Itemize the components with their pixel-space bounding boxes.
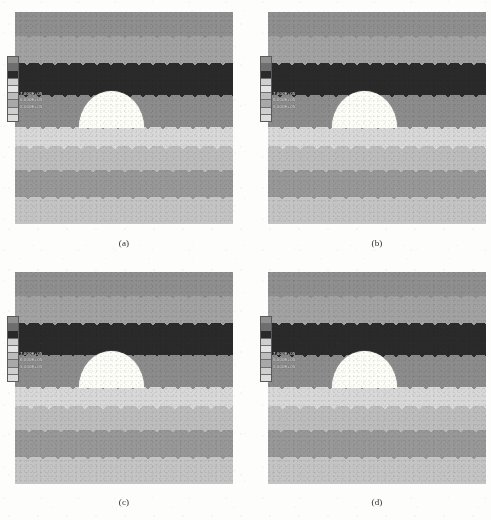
- colorbar-tick-label: 5.000E+05: [273, 104, 295, 110]
- colorbar-swatch: [261, 93, 271, 100]
- colorbar-swatch: [8, 353, 18, 360]
- panel-b: 7.000E+05 6.000E+05 5.000E+05: [268, 12, 486, 224]
- contour-edge: [15, 143, 233, 151]
- colorbar-swatch: [261, 108, 271, 115]
- contour-edge: [15, 403, 233, 411]
- colorbar-swatch: [8, 346, 18, 353]
- colorbar-swatch: [8, 93, 18, 100]
- contour-edge: [268, 33, 486, 41]
- colorbar-swatch: [8, 86, 18, 93]
- colorbar-swatch: [261, 346, 271, 353]
- colorbar-swatch: [8, 339, 18, 346]
- panel-a-plot: [15, 12, 233, 224]
- colorbar-swatch: [261, 375, 271, 381]
- contour-edge: [15, 60, 233, 68]
- colorbar-labels: 7.000E+05 6.000E+05 5.000E+05: [273, 91, 295, 110]
- colorbar-swatch: [8, 317, 18, 324]
- colorbar-swatch: [261, 86, 271, 93]
- colorbar-swatch: [261, 368, 271, 375]
- contour-edge: [268, 403, 486, 411]
- colorbar-swatch: [261, 115, 271, 121]
- colorbar-swatch: [261, 360, 271, 367]
- contour-edge: [268, 454, 486, 462]
- colorbar-swatch: [261, 339, 271, 346]
- panel-caption-c: (c): [15, 497, 233, 507]
- colorbar-swatch: [261, 324, 271, 331]
- colorbar-tick-label: 5.000E+05: [20, 364, 42, 370]
- colorbar-swatch: [261, 317, 271, 324]
- colorbar-labels: 7.000E+05 6.000E+05 5.000E+05: [273, 351, 295, 370]
- panel-c: 7.000E+05 6.000E+05 5.000E+05: [15, 272, 233, 484]
- figure-four-contour-panels: 7.000E+05 6.000E+05 5.000E+05 (a): [0, 0, 491, 520]
- contour-edge: [268, 194, 486, 202]
- contour-edge: [15, 33, 233, 41]
- colorbar-labels: 7.000E+05 6.000E+05 5.000E+05: [20, 91, 42, 110]
- panel-caption-b: (b): [268, 238, 486, 248]
- panel-a: 7.000E+05 6.000E+05 5.000E+05: [15, 12, 233, 224]
- colorbar-swatch: [8, 108, 18, 115]
- contour-edge: [268, 143, 486, 151]
- colorbar-swatch: [261, 79, 271, 86]
- colorbar: [7, 316, 19, 382]
- colorbar-swatch: [8, 79, 18, 86]
- contour-edge: [268, 167, 486, 175]
- colorbar-swatch: [8, 57, 18, 64]
- panel-c-plot: [15, 272, 233, 484]
- colorbar: [7, 56, 19, 122]
- colorbar-swatch: [8, 115, 18, 121]
- colorbar-swatch: [8, 64, 18, 71]
- colorbar-swatch: [8, 368, 18, 375]
- colorbar-labels: 7.000E+05 6.000E+05 5.000E+05: [20, 351, 42, 370]
- colorbar-swatch: [261, 100, 271, 107]
- panel-caption-d: (d): [268, 497, 486, 507]
- contour-edge: [268, 320, 486, 328]
- contour-edge: [268, 293, 486, 301]
- colorbar-tick-label: 5.000E+05: [20, 104, 42, 110]
- contour-edge: [15, 167, 233, 175]
- colorbar-tick-label: 5.000E+05: [273, 364, 295, 370]
- contour-edge: [15, 320, 233, 328]
- colorbar-swatch: [261, 353, 271, 360]
- colorbar-swatch: [261, 57, 271, 64]
- colorbar-swatch: [8, 360, 18, 367]
- colorbar-swatch: [261, 331, 271, 338]
- colorbar-swatch: [8, 375, 18, 381]
- contour-edge: [268, 427, 486, 435]
- colorbar: [260, 56, 272, 122]
- contour-edge: [15, 194, 233, 202]
- contour-edge: [15, 293, 233, 301]
- contour-edge: [15, 454, 233, 462]
- colorbar-swatch: [8, 71, 18, 78]
- colorbar-swatch: [8, 331, 18, 338]
- colorbar-swatch: [261, 71, 271, 78]
- colorbar-swatch: [261, 64, 271, 71]
- contour-edge: [15, 427, 233, 435]
- panel-caption-a: (a): [15, 238, 233, 248]
- contour-edge: [268, 60, 486, 68]
- colorbar: [260, 316, 272, 382]
- colorbar-swatch: [8, 324, 18, 331]
- colorbar-swatch: [8, 100, 18, 107]
- panel-d: 7.000E+05 6.000E+05 5.000E+05: [268, 272, 486, 484]
- panel-b-plot: [268, 12, 486, 224]
- panel-d-plot: [268, 272, 486, 484]
